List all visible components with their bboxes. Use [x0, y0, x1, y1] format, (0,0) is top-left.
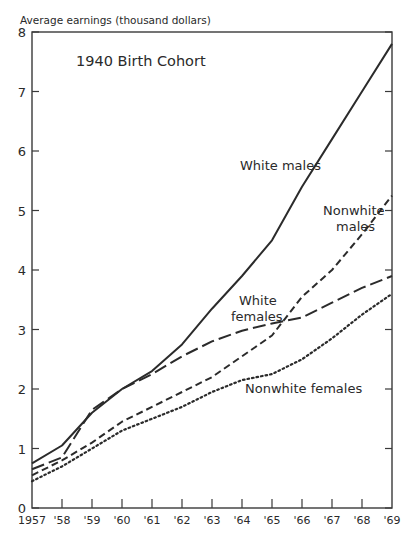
series-line-nonwhite-males: [32, 196, 392, 476]
y-tick-label: 6: [18, 144, 26, 159]
chart-title: 1940 Birth Cohort: [76, 53, 206, 69]
y-axis-label: Average earnings (thousand dollars): [20, 14, 211, 26]
y-tick-label: 8: [18, 25, 26, 40]
line-chart: 0123456781957'58'59'60'61'62'63'64'65'66…: [0, 0, 416, 542]
y-tick-label: 3: [18, 323, 26, 338]
x-tick-label: '64: [233, 514, 250, 527]
series-label: females: [231, 309, 283, 324]
x-tick-label: '66: [293, 514, 310, 527]
x-tick-label: '59: [83, 514, 100, 527]
series-line-white-females: [32, 276, 392, 469]
y-tick-label: 7: [18, 85, 26, 100]
x-tick-label: '67: [323, 514, 340, 527]
series-label: males: [336, 219, 375, 234]
x-tick-label: '60: [113, 514, 130, 527]
x-tick-label: '69: [383, 514, 400, 527]
x-tick-label: '63: [203, 514, 220, 527]
y-tick-label: 5: [18, 204, 26, 219]
series-line-white-males: [32, 44, 392, 464]
series-label: Nonwhite: [323, 203, 385, 218]
x-tick-label: 1957: [18, 514, 46, 527]
y-tick-label: 1: [18, 442, 26, 457]
plot-frame: [32, 32, 392, 508]
y-tick-label: 2: [18, 382, 26, 397]
x-tick-label: '68: [353, 514, 370, 527]
x-tick-label: '58: [53, 514, 70, 527]
annotations: White malesNonwhitemalesWhitefemalesNonw…: [231, 158, 385, 396]
x-tick-label: '62: [173, 514, 190, 527]
series-label: White: [239, 293, 277, 308]
series-lines: [32, 44, 392, 481]
axes: 0123456781957'58'59'60'61'62'63'64'65'66…: [18, 14, 401, 527]
series-label: White males: [240, 158, 321, 173]
y-tick-label: 4: [18, 263, 26, 278]
x-tick-label: '65: [263, 514, 280, 527]
x-tick-label: '61: [143, 514, 160, 527]
series-label: Nonwhite females: [245, 381, 362, 396]
